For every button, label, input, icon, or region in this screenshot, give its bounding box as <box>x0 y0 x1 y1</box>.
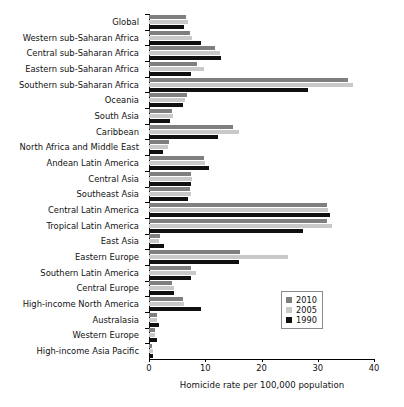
category-label: Global <box>112 18 139 26</box>
bar-2005 <box>149 349 153 353</box>
bar-2005 <box>149 208 328 212</box>
category-label: Oceania <box>105 96 139 104</box>
bar-group <box>149 92 374 108</box>
bar-1990 <box>149 229 303 233</box>
category-label: Western Europe <box>73 331 139 339</box>
y-axis-tick <box>145 92 149 93</box>
category-label: Eastern Europe <box>75 253 139 261</box>
bar-2010 <box>149 281 172 285</box>
bar-group <box>149 249 374 265</box>
bar-2005 <box>149 177 192 181</box>
bar-group <box>149 218 374 234</box>
y-axis-tick <box>145 124 149 125</box>
category-axis-labels: GlobalWestern sub-Saharan AfricaCentral … <box>0 14 145 359</box>
bar-2010 <box>149 156 204 160</box>
bar-2010 <box>149 62 197 66</box>
bar-2005 <box>149 302 184 306</box>
bar-group <box>149 234 374 250</box>
bar-1990 <box>149 119 170 123</box>
bar-2005 <box>149 130 239 134</box>
y-axis-tick <box>145 171 149 172</box>
plot-area <box>149 14 374 359</box>
x-axis-tick <box>262 359 263 362</box>
category-label: Tropical Latin America <box>46 222 139 230</box>
legend-label-2005: 2005 <box>296 306 317 314</box>
legend-item-1990: 1990 <box>286 315 317 325</box>
bar-2005 <box>149 161 205 165</box>
bar-group <box>149 30 374 46</box>
category-label: Southeast Asia <box>77 190 140 198</box>
x-axis-tick-label: 30 <box>312 364 323 372</box>
bar-1990 <box>149 56 221 60</box>
y-axis-tick <box>145 139 149 140</box>
bar-2010 <box>149 187 190 191</box>
category-label: High-income Asia Pacific <box>37 347 139 355</box>
bar-2010 <box>149 31 190 35</box>
bar-group <box>149 202 374 218</box>
y-axis-tick <box>145 45 149 46</box>
bar-2010 <box>149 250 240 254</box>
bar-group <box>149 328 374 344</box>
bar-group <box>149 281 374 297</box>
legend-item-2005: 2005 <box>286 305 317 315</box>
legend-swatch-2005-icon <box>286 307 292 313</box>
bar-1990 <box>149 103 183 107</box>
y-axis-tick <box>145 281 149 282</box>
bar-group <box>149 77 374 93</box>
y-axis-tick <box>145 296 149 297</box>
y-axis-tick <box>145 155 149 156</box>
bar-2010 <box>149 15 186 19</box>
y-axis-tick <box>145 249 149 250</box>
y-axis-tick <box>145 218 149 219</box>
bar-2010 <box>149 328 155 332</box>
bar-1990 <box>149 291 174 295</box>
x-axis-tick <box>318 359 319 362</box>
bar-2010 <box>149 219 327 223</box>
bar-1990 <box>149 307 201 311</box>
bar-2010 <box>149 109 172 113</box>
category-label: Southern Latin America <box>40 269 139 277</box>
y-axis-tick <box>145 202 149 203</box>
y-axis-tick <box>145 265 149 266</box>
bar-group <box>149 171 374 187</box>
bar-group <box>149 108 374 124</box>
bar-2005 <box>149 83 353 87</box>
legend-swatch-2010-icon <box>286 297 292 303</box>
bar-group <box>149 343 374 359</box>
bar-2010 <box>149 344 152 348</box>
bar-group <box>149 187 374 203</box>
bar-2010 <box>149 78 348 82</box>
bar-1990 <box>149 197 188 201</box>
bar-2010 <box>149 93 187 97</box>
bar-2005 <box>149 271 196 275</box>
legend-label-2010: 2010 <box>296 296 317 304</box>
category-label: Central sub-Saharan Africa <box>27 49 140 57</box>
y-axis-tick <box>145 14 149 15</box>
bar-group <box>149 296 374 312</box>
bar-1990 <box>149 260 239 264</box>
category-label: East Asia <box>101 237 139 245</box>
horizontal-bar-chart: GlobalWestern sub-Saharan AfricaCentral … <box>0 0 404 407</box>
bar-1990 <box>149 323 159 327</box>
bar-1990 <box>149 182 191 186</box>
bar-2010 <box>149 203 327 207</box>
chart-legend: 2010 2005 1990 <box>281 291 323 329</box>
bar-group <box>149 124 374 140</box>
category-label: Central Asia <box>88 174 139 182</box>
bar-2005 <box>149 333 155 337</box>
bar-2005 <box>149 51 220 55</box>
bar-2005 <box>149 114 173 118</box>
y-axis-tick <box>145 30 149 31</box>
bar-2005 <box>149 145 168 149</box>
x-axis-tick-label: 40 <box>369 364 380 372</box>
bar-1990 <box>149 41 201 45</box>
bar-2010 <box>149 266 191 270</box>
bar-1990 <box>149 135 218 139</box>
bar-1990 <box>149 354 153 358</box>
bar-2010 <box>149 140 169 144</box>
bar-2010 <box>149 234 160 238</box>
bar-1990 <box>149 150 163 154</box>
y-axis-tick <box>145 234 149 235</box>
bar-1990 <box>149 72 191 76</box>
bar-2010 <box>149 46 215 50</box>
